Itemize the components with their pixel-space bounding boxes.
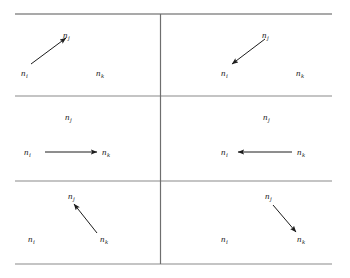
node-label-nk: nk <box>297 148 305 157</box>
node-label-nj: nj <box>65 113 72 122</box>
figure-root: nj ni nk nj ni nk nj ni nk nj ni nk nj n… <box>0 0 350 278</box>
node-label-nk: nk <box>297 235 305 244</box>
node-label-ni: ni <box>24 148 31 157</box>
node-label-ni: ni <box>21 69 28 78</box>
node-label-nj: nj <box>63 31 70 40</box>
edge-arrows <box>31 38 296 233</box>
grid-lines <box>15 14 332 264</box>
node-label-ni: ni <box>221 69 228 78</box>
node-label-ni: ni <box>28 235 35 244</box>
arrow-top-left <box>31 38 66 64</box>
node-label-nj: nj <box>265 192 272 201</box>
node-label-nj: nj <box>262 31 269 40</box>
node-label-nk: nk <box>296 69 304 78</box>
node-label-nk: nk <box>96 69 104 78</box>
node-label-ni: ni <box>221 235 228 244</box>
arrow-bottom-left <box>74 204 97 233</box>
node-label-nk: nk <box>102 148 110 157</box>
arrow-bottom-right <box>273 205 296 232</box>
arrow-top-right <box>232 39 265 64</box>
node-label-nj: nj <box>263 113 270 122</box>
node-label-nk: nk <box>100 235 108 244</box>
node-label-nj: nj <box>68 192 75 201</box>
node-label-ni: ni <box>221 148 228 157</box>
